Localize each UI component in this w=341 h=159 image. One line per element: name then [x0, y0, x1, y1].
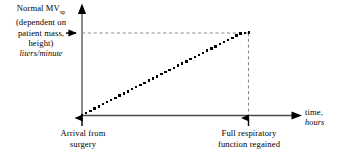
- y-axis-label-line-1: Normal MVsp: [2, 3, 80, 17]
- y-axis-units: liters/minute: [2, 49, 80, 60]
- y-axis-label-line-2: (dependent on: [2, 17, 80, 28]
- regained-caption-line-1: Full respiratory: [196, 128, 302, 139]
- figure-text-layer: Normal MVsp (dependent on patient mass, …: [0, 0, 341, 159]
- minute-volume-recovery-figure: Normal MVsp (dependent on patient mass, …: [0, 0, 341, 159]
- arrival-from-surgery-caption: Arrival from surgery: [38, 128, 128, 149]
- y-axis-label-line-4: height): [2, 38, 80, 49]
- x-axis-label: time, hours: [305, 107, 341, 128]
- x-axis-units: hours: [305, 118, 341, 129]
- arrival-caption-line-1: Arrival from: [38, 128, 128, 139]
- y-axis-label-subscript: sp: [60, 9, 65, 15]
- y-axis-label-line-3: patient mass,: [2, 28, 80, 39]
- y-axis-label: Normal MVsp (dependent on patient mass, …: [2, 3, 80, 59]
- regained-caption-line-2: function regained: [196, 139, 302, 150]
- arrival-caption-line-2: surgery: [38, 139, 128, 150]
- x-axis-label-text: time,: [305, 107, 341, 118]
- full-function-regained-caption: Full respiratory function regained: [196, 128, 302, 149]
